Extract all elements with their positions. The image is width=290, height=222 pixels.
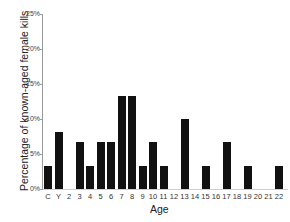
bar-11 <box>160 166 168 189</box>
bar-13 <box>181 119 189 189</box>
x-axis <box>42 189 288 190</box>
y-tick-label: 0% <box>18 185 40 193</box>
y-tick-mark <box>40 84 43 85</box>
y-tick-label: 25% <box>18 10 40 18</box>
bar-C <box>44 166 52 189</box>
y-axis <box>42 14 43 190</box>
y-tick-label: 5% <box>18 150 40 158</box>
y-tick-mark <box>40 119 43 120</box>
y-tick-label: 10% <box>18 115 40 123</box>
bar-10 <box>149 142 157 189</box>
x-axis-label: Age <box>150 203 169 215</box>
bar-Y <box>55 132 63 189</box>
bar-19 <box>244 166 252 189</box>
bar-8 <box>128 96 136 189</box>
y-axis-label: Percentage of known-aged female kills <box>18 11 30 191</box>
bar-4 <box>86 166 94 189</box>
x-tick-label: 22 <box>273 192 285 201</box>
bar-17 <box>223 142 231 189</box>
y-tick-mark <box>40 154 43 155</box>
bar-9 <box>139 166 147 189</box>
bar-15 <box>202 166 210 189</box>
y-tick-mark <box>40 189 43 190</box>
y-tick-mark <box>40 49 43 50</box>
bar-3 <box>76 142 84 189</box>
y-tick-mark <box>40 14 43 15</box>
bar-5 <box>97 142 105 189</box>
bar-6 <box>107 142 115 189</box>
bar-22 <box>275 166 283 189</box>
y-tick-label: 15% <box>18 80 40 88</box>
y-tick-label: 20% <box>18 45 40 53</box>
bar-7 <box>118 96 126 189</box>
